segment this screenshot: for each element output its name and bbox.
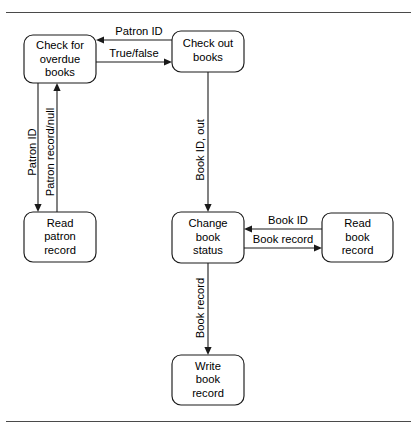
node-read-book-line-2: book xyxy=(345,231,370,243)
arrowhead-up-icon xyxy=(53,83,60,91)
arrowhead-right-icon xyxy=(164,58,172,65)
node-read-patron-line-1: Read xyxy=(47,217,74,229)
edge-patron-id-top: Patron ID xyxy=(96,25,172,43)
node-check-overdue-line-3: books xyxy=(45,66,75,78)
node-write-book-line-3: record xyxy=(192,387,224,399)
edge-label-book-id: Book ID xyxy=(268,214,308,226)
node-read-patron-line-2: patron xyxy=(44,230,76,242)
node-change-status-line-1: Change xyxy=(188,217,227,229)
node-change-status-line-3: status xyxy=(193,244,223,256)
arrowhead-right-icon xyxy=(314,244,322,251)
edge-book-record-right: Book record xyxy=(244,233,322,252)
diagram-page: Patron ID True/false Patron ID Patron re… xyxy=(0,0,417,437)
edge-label-book-id-out: Book ID, out xyxy=(194,118,206,180)
arrowhead-left-icon xyxy=(96,36,104,43)
edge-true-false: True/false xyxy=(96,47,172,65)
edge-label-patron-record: Patron record/null xyxy=(44,108,56,196)
node-read-book[interactable]: Read book record xyxy=(322,213,393,262)
edge-patron-id-down: Patron ID xyxy=(26,83,42,212)
node-check-out-line-1: Check out xyxy=(183,37,234,49)
node-read-book-line-3: record xyxy=(342,244,374,256)
edge-patron-record: Patron record/null xyxy=(44,83,61,212)
arrowhead-down-icon xyxy=(204,347,211,355)
node-write-book-line-2: book xyxy=(196,373,221,385)
node-write-book-line-1: Write xyxy=(195,360,221,372)
flow-diagram: Patron ID True/false Patron ID Patron re… xyxy=(0,0,417,437)
node-check-overdue-line-1: Check for xyxy=(36,39,84,51)
node-check-out[interactable]: Check out books xyxy=(172,31,244,72)
edge-label-book-record-down: Book record xyxy=(194,278,206,338)
edge-book-record-down: Book record xyxy=(194,263,212,355)
node-check-overdue-line-2: overdue xyxy=(40,53,80,65)
node-change-status-line-2: book xyxy=(196,231,221,243)
node-change-status[interactable]: Change book status xyxy=(172,212,244,263)
node-write-book[interactable]: Write book record xyxy=(172,355,244,405)
edge-label-patron-id-top: Patron ID xyxy=(115,25,162,37)
node-check-overdue[interactable]: Check for overdue books xyxy=(24,35,96,83)
edge-label-patron-id-down: Patron ID xyxy=(26,128,38,175)
arrowhead-down-icon xyxy=(34,204,41,212)
edge-label-book-record-right: Book record xyxy=(253,233,313,245)
node-check-out-line-2: books xyxy=(193,51,223,63)
edge-label-true-false: True/false xyxy=(109,47,158,59)
node-read-patron[interactable]: Read patron record xyxy=(24,212,96,262)
arrowhead-left-icon xyxy=(244,225,252,232)
node-read-patron-line-3: record xyxy=(44,244,76,256)
node-read-book-line-1: Read xyxy=(344,217,371,229)
arrowhead-down-icon xyxy=(204,204,211,212)
edge-book-id-out: Book ID, out xyxy=(194,72,212,212)
edge-book-id: Book ID xyxy=(244,214,322,233)
